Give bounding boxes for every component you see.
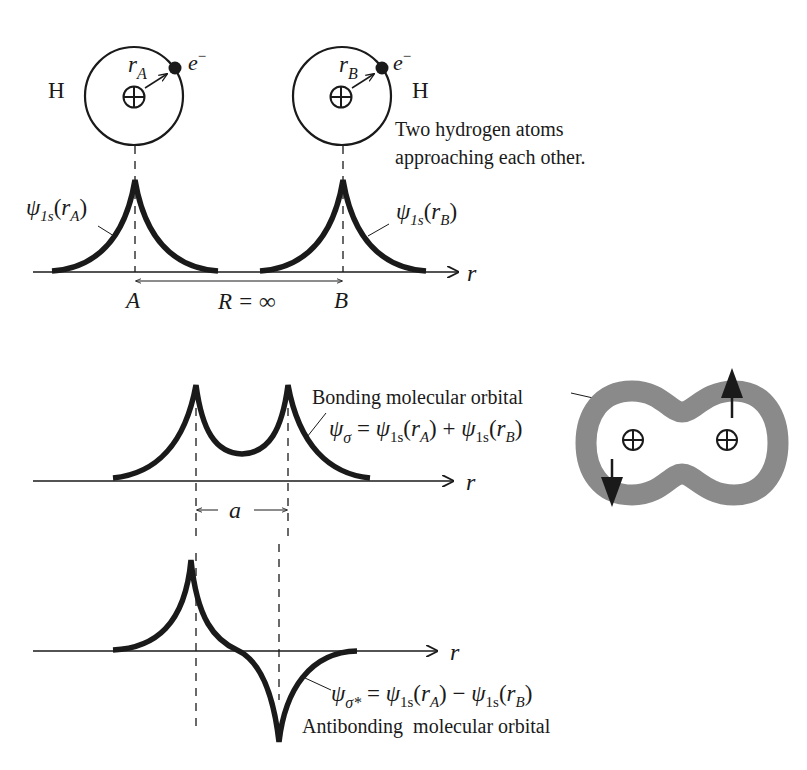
r-axis-label-bottom: r	[450, 639, 460, 665]
bonding-title: Bonding molecular orbital	[312, 386, 524, 409]
r-axis-label-top: r	[467, 260, 477, 286]
nucleus-left-icon	[623, 430, 643, 450]
point-b-label: B	[334, 288, 348, 313]
bonding-density-icon	[571, 368, 778, 507]
psi-1s-b-label: ψ1s(rB)	[396, 199, 457, 228]
nucleus-a-icon	[124, 87, 145, 108]
electron-b-icon	[376, 62, 389, 75]
radius-arrow-a	[145, 74, 167, 88]
psi-1s-a-label: ψ1s(rA)	[26, 195, 87, 224]
bonding-panel: r a Bonding molecular orbital ψσ = ψ1s(r…	[33, 368, 778, 540]
antibonding-title: Antibonding molecular orbital	[302, 715, 551, 738]
nucleus-b-icon	[331, 87, 352, 108]
nucleus-right-icon	[717, 430, 737, 450]
psi-a-leader	[98, 226, 114, 236]
molecular-orbital-diagram: rA e− H rB e− H Two hydrogen atoms appro…	[0, 0, 807, 770]
electron-label-b: e−	[393, 48, 411, 75]
antibonding-equation: ψσ* = ψ1s(rA) − ψ1s(rB)	[331, 681, 532, 711]
radius-label-a: rA	[128, 52, 147, 82]
electron-a-icon	[169, 62, 182, 75]
atom-symbol-a: H	[48, 78, 65, 103]
electron-label-a: e−	[188, 48, 206, 75]
antibonding-panel: r ψσ* = ψ1s(rA) − ψ1s(rB) Antibonding mo…	[33, 544, 551, 742]
top-panel: rA e− H rB e− H Two hydrogen atoms appro…	[26, 47, 585, 314]
bonding-curve-leader	[307, 413, 326, 437]
point-a-label: A	[124, 288, 141, 313]
hydrogen-atom-a: rA e− H	[48, 47, 206, 145]
bonding-equation: ψσ = ψ1s(rA) + ψ1s(rB)	[329, 416, 522, 446]
top-caption-line-2: approaching each other.	[395, 146, 585, 169]
r-axis-label-middle: r	[466, 469, 476, 495]
radius-label-b: rB	[339, 52, 358, 82]
separation-label: R = ∞	[217, 289, 275, 314]
atom-symbol-b: H	[412, 78, 429, 103]
spin-up-arrow-icon	[721, 368, 743, 418]
antibonding-curve-leader	[305, 678, 331, 690]
spacing-label: a	[229, 497, 241, 523]
top-caption-line-1: Two hydrogen atoms	[395, 118, 564, 141]
psi-b-leader	[368, 224, 389, 236]
